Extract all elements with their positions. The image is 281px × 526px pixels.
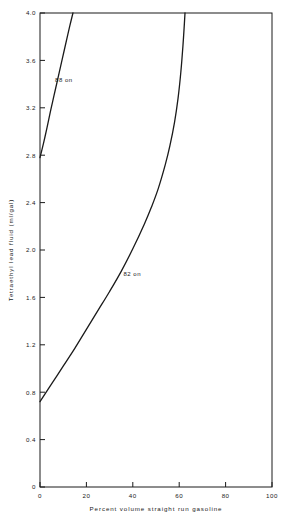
x-tick-label: 40 [129, 492, 137, 499]
y-tick-label: 0 [32, 483, 36, 490]
x-tick-label: 80 [222, 492, 230, 499]
y-tick-label: 1.6 [26, 294, 36, 301]
x-tick-label: 0 [38, 492, 42, 499]
tetraethyl-lead-chart: 00.40.81.21.62.02.42.83.23.64.0020406080… [0, 0, 281, 526]
y-axis-title: Tetraethyl lead fluid (ml/gal) [7, 199, 14, 302]
x-axis-title: Percent volume straight run gasoline [90, 505, 223, 512]
series-curve-2 [40, 13, 185, 402]
y-tick-label: 3.6 [26, 57, 36, 64]
y-tick-label: 1.2 [26, 341, 36, 348]
y-tick-label: 3.2 [26, 104, 36, 111]
chart-figure: 00.40.81.21.62.02.42.83.23.64.0020406080… [0, 0, 281, 526]
y-tick-label: 0.4 [26, 436, 36, 443]
series-label-2: 82 on [124, 271, 142, 277]
y-tick-label: 2.4 [26, 199, 36, 206]
plot-frame [40, 13, 272, 487]
series-label-1: 88 on [55, 77, 73, 83]
y-tick-label: 4.0 [26, 9, 36, 16]
series-curve-1 [40, 13, 73, 158]
y-tick-label: 2.8 [26, 152, 36, 159]
x-tick-label: 20 [82, 492, 90, 499]
x-tick-label: 60 [175, 492, 183, 499]
x-tick-label: 100 [266, 492, 278, 499]
y-tick-label: 0.8 [26, 389, 36, 396]
y-tick-label: 2.0 [26, 246, 36, 253]
